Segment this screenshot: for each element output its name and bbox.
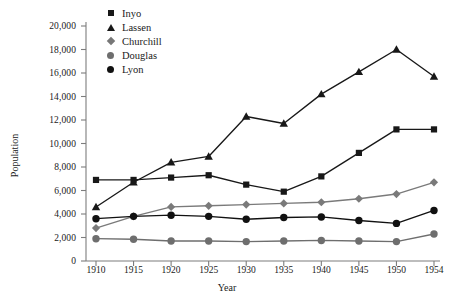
series-lassen bbox=[92, 45, 438, 210]
series-inyo bbox=[93, 126, 437, 194]
chart-plot bbox=[0, 0, 454, 305]
chart-figure: 02,0004,0006,0008,00010,00012,00014,0001… bbox=[0, 0, 454, 305]
series-churchill bbox=[92, 178, 438, 232]
series-lyon bbox=[92, 207, 437, 227]
data-series-layer bbox=[92, 45, 438, 245]
axes bbox=[81, 22, 440, 266]
series-douglas bbox=[92, 230, 437, 245]
